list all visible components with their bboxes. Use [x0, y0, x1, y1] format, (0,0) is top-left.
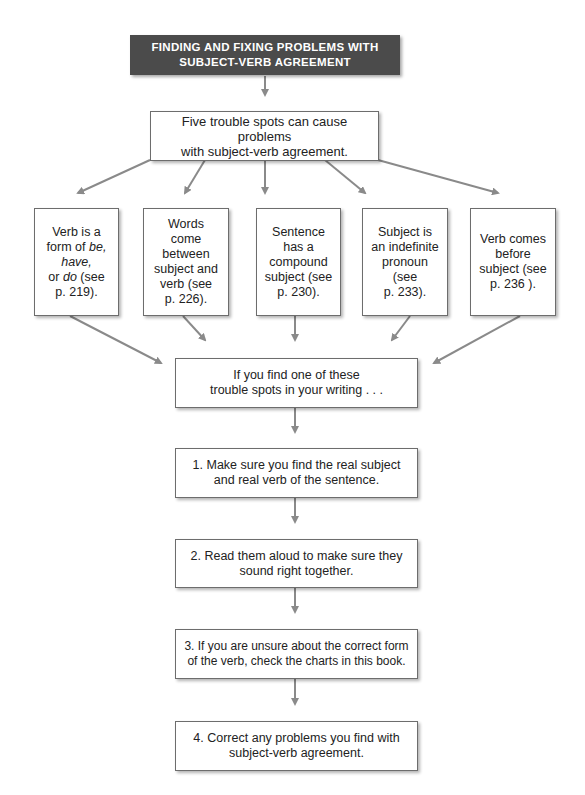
intro-box: Five trouble spots can cause problems wi… [150, 111, 379, 161]
intro-line-2: with subject-verb agreement. [181, 144, 348, 159]
text-line: subject (see [479, 262, 546, 277]
text-line: form of be, [47, 240, 107, 255]
italic-have: have, [61, 255, 92, 270]
text-line: or do (see [48, 270, 104, 285]
trouble-spot-compound-subject: Sentence has a compound subject (see p. … [256, 208, 341, 316]
text-line: has a [283, 240, 314, 255]
text-line: (see [393, 270, 417, 285]
trouble-spot-words-between: Words come between subject and verb (see… [143, 208, 229, 316]
text-line: Words [168, 217, 204, 232]
step-4-box: 4. Correct any problems you find with su… [175, 721, 418, 771]
text-line: p. 230). [277, 285, 319, 300]
text-line: 3. If you are unsure about the correct f… [184, 639, 408, 654]
text-line: Verb is a [52, 225, 101, 240]
text-line: trouble spots in your writing . . . [210, 383, 383, 398]
text-line: 2. Read them aloud to make sure they [191, 549, 403, 564]
intro-line-1: Five trouble spots can cause problems [154, 114, 375, 144]
trouble-spot-indefinite-pronoun: Subject is an indefinite pronoun (see p.… [362, 208, 448, 316]
text-fragment: (see [77, 270, 105, 284]
text-line: 4. Correct any problems you find with [193, 731, 399, 746]
text-line: compound [269, 255, 327, 270]
text-line: Verb comes [480, 232, 546, 247]
text-line: between [162, 247, 209, 262]
step-1-box: 1. Make sure you find the real subject a… [175, 448, 418, 498]
text-line: p. 233). [384, 285, 426, 300]
text-line: Sentence [272, 225, 325, 240]
text-line: of the verb, check the charts in this bo… [187, 654, 405, 669]
text-line: and real verb of the sentence. [214, 473, 379, 488]
text-line: 1. Make sure you find the real subject [193, 458, 401, 473]
text-line: subject and [154, 262, 218, 277]
text-line: an indefinite [371, 240, 438, 255]
trouble-spot-verb-before-subject: Verb comes before subject (see p. 236 ). [470, 208, 556, 316]
merge-box: If you find one of these trouble spots i… [175, 358, 418, 408]
italic-be: be, [89, 240, 106, 254]
text-line: p. 219). [55, 285, 97, 300]
text-line: before [495, 247, 530, 262]
title-line-1: FINDING AND FIXING PROBLEMS WITH [130, 40, 400, 55]
text-line: come [171, 232, 202, 247]
text-line: subject-verb agreement. [229, 746, 364, 761]
text-line: Subject is [378, 225, 432, 240]
italic-do: do [63, 270, 77, 284]
step-2-box: 2. Read them aloud to make sure they sou… [175, 539, 418, 588]
text-line: pronoun [382, 255, 428, 270]
text-line: If you find one of these [233, 368, 359, 383]
trouble-spot-be-have-do: Verb is a form of be, have, or do (see p… [34, 208, 119, 316]
title-line-2: SUBJECT-VERB AGREEMENT [130, 55, 400, 70]
text-line: verb (see [160, 277, 212, 292]
text-line: subject (see [265, 270, 332, 285]
text-fragment: or [48, 270, 63, 284]
text-line: p. 236 ). [490, 277, 536, 292]
text-fragment: form of [47, 240, 89, 254]
title-banner: FINDING AND FIXING PROBLEMS WITH SUBJECT… [130, 35, 400, 75]
step-3-box: 3. If you are unsure about the correct f… [175, 629, 418, 679]
text-line: p. 226). [165, 292, 207, 307]
text-line: sound right together. [240, 564, 354, 579]
